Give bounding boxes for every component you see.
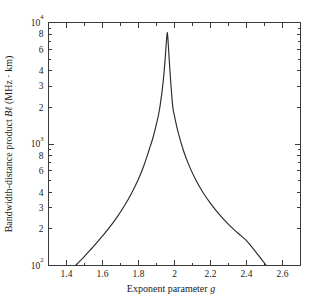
y-axis-title-symbol: Bℓ [3,107,14,117]
x-axis-ticks [67,23,283,266]
x-axis-title-symbol: g [210,283,215,294]
x-tick-label: 1.4 [61,269,73,279]
y-tick-label-minor: 4 [39,188,44,198]
y-tick-label-minor: 2 [39,103,44,113]
x-tick-label: 2.4 [241,269,253,279]
y-axis-ticks [49,23,301,266]
y-axis-tick-labels: 1021031042346823468 [31,13,45,271]
y-tick-label-minor: 3 [39,203,44,213]
series-curve-bl-vs-g [76,32,267,265]
y-tick-label-minor: 2 [39,224,44,234]
y-tick-label-minor: 8 [39,151,44,161]
y-tick-label-minor: 3 [39,81,44,91]
axes-frame [49,23,301,266]
x-axis-tick-labels: 1.41.61.822.22.42.6 [61,269,289,279]
x-tick-label: 2.6 [277,269,289,279]
y-tick-label: 102 [31,256,44,271]
y-tick-label: 104 [31,13,45,28]
y-tick-label-minor: 6 [39,166,44,176]
x-tick-label: 2.2 [205,269,217,279]
y-tick-label-minor: 6 [39,45,44,55]
x-tick-label: 1.8 [133,269,145,279]
x-tick-label: 1.6 [97,269,109,279]
data-series-group [76,32,267,265]
x-tick-label: 2 [172,269,177,279]
y-axis-title: Bandwidth-distance product Bℓ (MHz · km) [3,56,15,233]
figure-container: 1021031042346823468 1.41.61.822.22.42.6 … [0,0,312,300]
y-tick-label: 103 [31,134,45,149]
x-axis-title: Exponent parameter g [127,283,215,294]
chart-canvas: 1021031042346823468 1.41.61.822.22.42.6 … [0,0,312,300]
y-tick-label-minor: 4 [39,66,44,76]
y-tick-label-minor: 8 [39,29,44,39]
